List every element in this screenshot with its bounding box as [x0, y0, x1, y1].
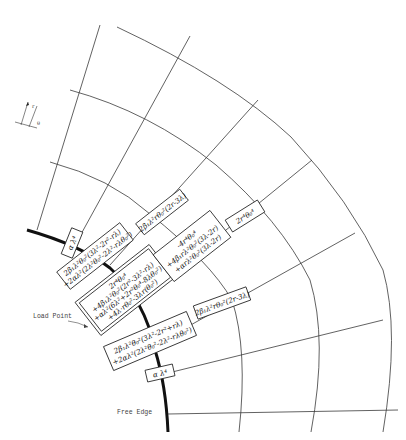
- grid-radials: [37, 25, 398, 414]
- free-edge-label: Free Edge: [117, 409, 152, 416]
- radial-7: [168, 410, 398, 414]
- radial-1: [37, 25, 100, 230]
- load-point-annotation: Load Point: [33, 313, 88, 328]
- stencil-box-beta-mid-upper: 2β₁λ²rθ₀²(2r-3λ): [134, 189, 189, 236]
- axis-marker: r θ: [15, 102, 40, 128]
- stencil-box-beta-mid-lower: 2β₁λ²rθ₀²(2r-3λ): [192, 286, 252, 319]
- load-point-label: Load Point: [33, 313, 72, 320]
- stencil-box-2r4: 2r⁴θ₀⁴: [225, 200, 265, 232]
- svg-text:2β₁λ²rθ₀²(2r-3λ): 2β₁λ²rθ₀²(2r-3λ): [136, 191, 188, 234]
- stencil-box-alpha-bottom: α λ⁴: [145, 364, 175, 382]
- axis-theta-label: θ: [37, 120, 40, 126]
- polar-grid-diagram: r θ α λ⁴ 2β₁λ²θ₀²(3λ²-2r²-rλ) +2αλ²(2λ²θ…: [0, 0, 406, 440]
- axis-r-label: r: [32, 103, 35, 109]
